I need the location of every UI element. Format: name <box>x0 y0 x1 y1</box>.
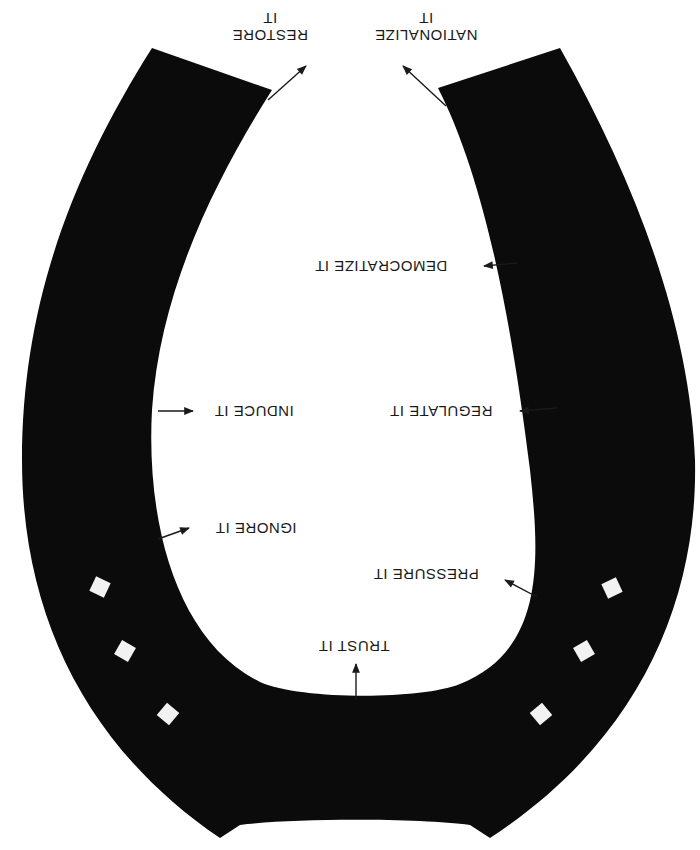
label-restore-line2: IT <box>224 10 316 27</box>
label-pressure: PRESSURE IT <box>350 566 502 583</box>
label-nationalize-line2: IT <box>356 10 496 27</box>
arrow-ignore <box>158 528 189 539</box>
horseshoe-diagram: RESTORE IT NATIONALIZE IT DEMOCRATIZE IT… <box>0 0 700 850</box>
label-nationalize-line1: NATIONALIZE <box>356 27 496 44</box>
arrow-nationalize <box>403 66 446 106</box>
label-regulate: REGULATE IT <box>368 403 514 420</box>
label-restore: RESTORE IT <box>224 10 316 44</box>
label-trust: TRUST IT <box>304 638 404 655</box>
label-restore-line1: RESTORE <box>224 27 316 44</box>
horseshoe-graphic <box>0 0 700 850</box>
label-nationalize: NATIONALIZE IT <box>356 10 496 44</box>
arrow-restore <box>268 66 306 100</box>
label-induce: INDUCE IT <box>196 403 312 420</box>
label-ignore: IGNORE IT <box>198 520 314 537</box>
horseshoe-body <box>22 48 695 838</box>
label-democratize: DEMOCRATIZE IT <box>286 258 476 275</box>
arrow-pressure <box>505 580 537 597</box>
